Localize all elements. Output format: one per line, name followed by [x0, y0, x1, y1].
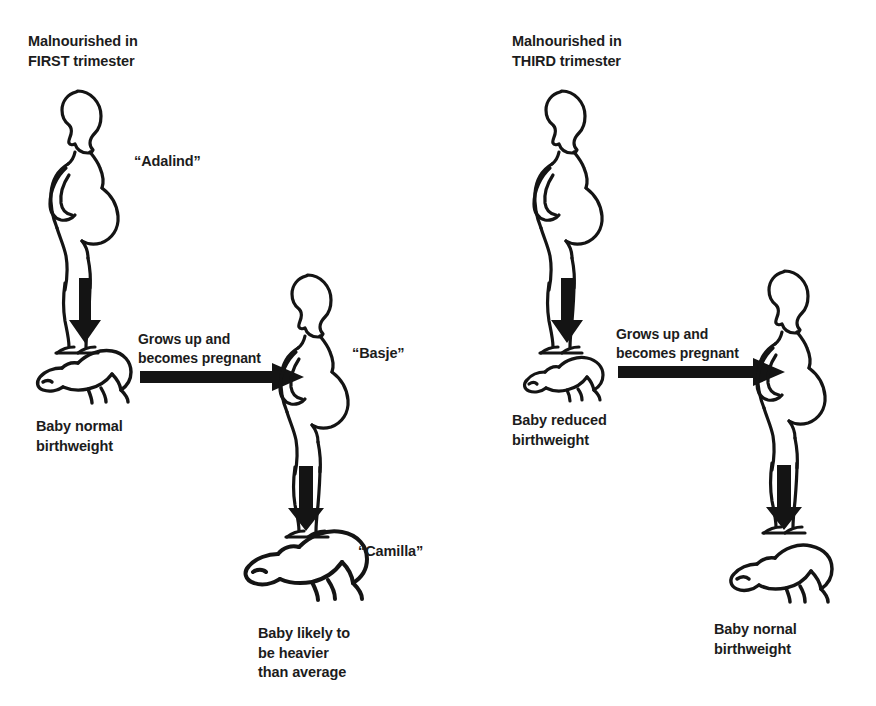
panel-heading-first-trimester: Malnourished in FIRST trimester	[28, 32, 138, 71]
pregnant-woman-figure-adalind	[28, 78, 153, 283]
crawling-baby-figure-reduced-right	[520, 352, 616, 404]
figure-name-adalind: “Adalind”	[134, 152, 201, 172]
pregnant-woman-figure-basje	[258, 262, 383, 467]
figure-name-camilla: “Camilla”	[358, 542, 423, 562]
pregnant-woman-figure-gen1-right	[512, 78, 637, 283]
figure-name-basje: “Basje”	[352, 344, 405, 364]
panel-third-trimester: Malnourished in THIRD trimester	[480, 0, 876, 706]
panel-heading-third-trimester: Malnourished in THIRD trimester	[512, 32, 622, 71]
arrow-down-generation-2-to-3-right	[765, 465, 805, 531]
crawling-baby-figure-normal-right	[725, 538, 849, 604]
crawling-baby-figure-camilla	[240, 522, 390, 604]
diagram-root: Malnourished in FIRST trimester	[0, 0, 876, 706]
caption-baby-heavier-than-average: Baby likely to be heavier than average	[258, 624, 350, 683]
crawling-baby-figure-normal-left	[32, 344, 150, 406]
panel-first-trimester: Malnourished in FIRST trimester	[0, 0, 480, 706]
arrow-down-generation-1-to-2-left	[68, 278, 104, 344]
caption-baby-normal-birthweight-left: Baby normal birthweight	[36, 417, 123, 456]
arrow-down-generation-1-to-2-right	[550, 278, 586, 344]
caption-baby-normal-birthweight-right: Baby nornal birthweight	[714, 620, 797, 659]
pregnant-woman-figure-gen2-right	[735, 258, 860, 463]
caption-baby-reduced-birthweight: Baby reduced birthweight	[512, 411, 607, 450]
